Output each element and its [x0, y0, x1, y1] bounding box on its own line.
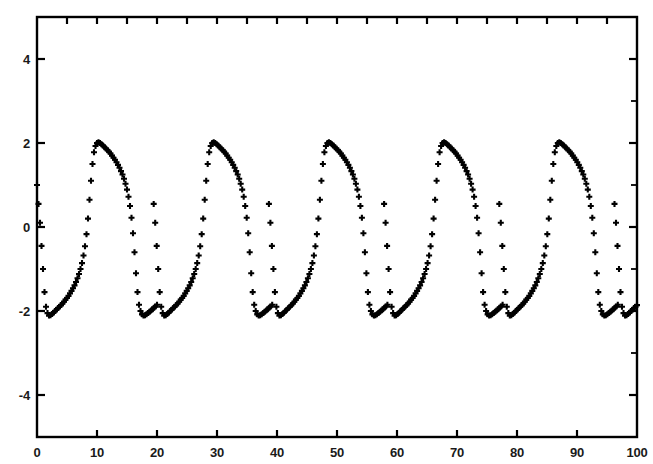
data-point-marker: [549, 178, 555, 184]
data-point-marker: [152, 220, 158, 226]
data-point-marker: [199, 231, 205, 237]
data-point-marker: [425, 260, 431, 266]
data-point-marker: [354, 187, 360, 193]
data-point-marker: [479, 270, 485, 276]
data-point-marker: [197, 243, 203, 249]
x-tick-label: 40: [270, 445, 284, 460]
data-point-marker: [365, 289, 371, 295]
data-point-marker: [90, 161, 96, 167]
data-point-marker: [309, 260, 315, 266]
x-tick-label: 0: [33, 445, 40, 460]
data-point-marker: [124, 187, 130, 193]
data-point-marker: [589, 215, 595, 221]
data-point-marker: [586, 194, 592, 200]
data-point-marker: [247, 249, 253, 255]
x-tick-label: 50: [330, 445, 344, 460]
data-point-marker: [34, 182, 40, 188]
data-point-marker: [79, 260, 85, 266]
data-point-marker: [546, 216, 552, 222]
x-tick-label: 100: [626, 445, 647, 460]
data-point-marker: [613, 220, 619, 226]
data-point-marker: [499, 243, 505, 249]
data-point-marker: [242, 203, 248, 209]
data-point-marker: [618, 289, 624, 295]
x-tick-label: 20: [150, 445, 164, 460]
data-point-marker: [474, 215, 480, 221]
data-point-marker: [320, 161, 326, 167]
data-point-marker: [151, 201, 157, 207]
data-point-marker: [315, 216, 321, 222]
data-point-marker: [312, 243, 318, 249]
x-tick-label: 10: [90, 445, 104, 460]
data-point-marker: [437, 149, 443, 155]
data-point-marker: [251, 302, 257, 308]
data-point-marker: [498, 220, 504, 226]
data-point-marker: [248, 270, 254, 276]
data-point-marker: [154, 243, 160, 249]
data-point-marker: [384, 243, 390, 249]
data-point-marker: [241, 194, 247, 200]
data-point-marker: [244, 215, 250, 221]
data-point-marker: [386, 266, 392, 272]
data-point-marker: [359, 215, 365, 221]
data-point-marker: [470, 187, 476, 193]
data-point-marker: [502, 289, 508, 295]
data-point-marker: [266, 201, 272, 207]
data-point-marker: [357, 203, 363, 209]
data-point-marker: [434, 178, 440, 184]
data-point-marker: [476, 230, 482, 236]
data-point-marker: [82, 243, 88, 249]
data-point-marker: [381, 201, 387, 207]
plot-canvas: [0, 0, 653, 464]
plot-frame: [37, 17, 637, 437]
data-point-marker: [200, 216, 206, 222]
data-point-marker: [318, 178, 324, 184]
data-point-marker: [157, 289, 163, 295]
data-point-marker: [42, 289, 48, 295]
y-tick-label: 2: [6, 136, 30, 151]
y-tick-label: -4: [6, 388, 30, 403]
data-point-marker: [39, 243, 45, 249]
data-point-marker: [428, 243, 434, 249]
data-point-marker: [321, 149, 327, 155]
data-point-marker: [87, 197, 93, 203]
data-point-marker: [615, 243, 621, 249]
x-tick-label: 70: [450, 445, 464, 460]
data-point-marker: [471, 194, 477, 200]
data-point-marker: [267, 220, 273, 226]
data-point-marker: [43, 304, 49, 310]
data-point-marker: [541, 253, 547, 259]
data-point-marker: [194, 260, 200, 266]
data-point-marker: [270, 266, 276, 272]
data-point-marker: [360, 230, 366, 236]
data-point-marker: [40, 266, 46, 272]
data-point-marker: [203, 178, 209, 184]
data-point-marker: [496, 201, 502, 207]
data-point-marker: [250, 289, 256, 295]
data-point-marker: [366, 302, 372, 308]
data-point-marker: [245, 230, 251, 236]
data-point-marker: [129, 215, 135, 221]
data-point-marker: [127, 203, 133, 209]
data-point-marker: [196, 253, 202, 259]
data-point-marker: [473, 203, 479, 209]
data-point-marker: [592, 249, 598, 255]
plot-border: [37, 17, 637, 437]
data-point-marker: [88, 178, 94, 184]
data-point-marker: [356, 194, 362, 200]
data-point-marker: [482, 302, 488, 308]
data-point-marker: [429, 231, 435, 237]
data-point-marker: [612, 201, 618, 207]
data-point-marker: [130, 230, 136, 236]
data-point-marker: [540, 260, 546, 266]
data-point-marker: [126, 194, 132, 200]
y-tick-label: -2: [6, 304, 30, 319]
data-point-marker: [155, 266, 161, 272]
data-point-marker: [435, 161, 441, 167]
x-tick-label: 90: [570, 445, 584, 460]
data-point-marker: [136, 302, 142, 308]
data-point-marker: [480, 289, 486, 295]
data-point-marker: [85, 216, 91, 222]
data-markers: [34, 139, 640, 318]
data-point-marker: [133, 270, 139, 276]
